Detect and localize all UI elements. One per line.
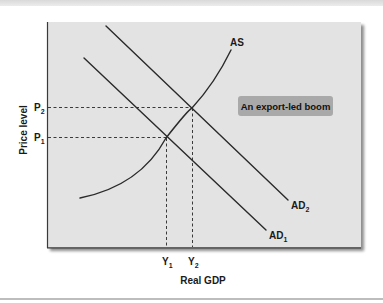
bottom-rule [0, 298, 383, 300]
p2-tick-label: P2 [34, 102, 45, 115]
y-axis-title: Price level [18, 105, 29, 155]
p1-tick-label: P1 [34, 132, 45, 145]
ad-as-diagram: AS AD2 AD1 P2 P1 Y1 Y2 Real GDP Price le… [0, 0, 383, 303]
annotation-callout: An export-led boom [238, 96, 333, 116]
plot-area [47, 22, 361, 248]
x-axis-title: Real GDP [180, 275, 226, 286]
annotation-text: An export-led boom [241, 101, 331, 112]
y2-tick-label: Y2 [188, 256, 199, 269]
y1-tick-label: Y1 [162, 256, 173, 269]
as-label: AS [230, 37, 244, 48]
